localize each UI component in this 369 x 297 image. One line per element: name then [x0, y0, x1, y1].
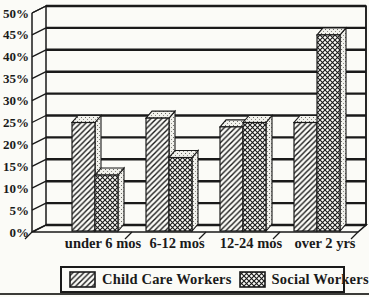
- y-axis-tick: [32, 94, 46, 101]
- y-axis-tick: [32, 116, 46, 123]
- bar-social-workers-3: [317, 28, 346, 231]
- x-axis-category-label: under 6 mos: [65, 235, 142, 251]
- x-axis-category-label: over 2 yrs: [295, 235, 356, 251]
- bar-front-face: [169, 158, 192, 231]
- left-wall-top-edge: [32, 6, 46, 13]
- bar-social-workers-2: [243, 116, 272, 232]
- diagonal-hatch-swatch-icon: [69, 271, 96, 288]
- bar-front-face: [95, 175, 118, 231]
- y-axis-tick: [32, 159, 46, 166]
- y-axis-tick: [32, 181, 46, 188]
- y-axis-tick-label: 15%: [3, 159, 29, 174]
- legend-label-child-care-workers: Child Care Workers: [102, 271, 232, 288]
- y-axis-tick-label: 35%: [3, 71, 29, 86]
- chart-legend: Child Care Workers Social Workers: [60, 266, 345, 293]
- legend-item-social-workers: Social Workers: [239, 271, 369, 288]
- bar-front-face: [294, 123, 317, 232]
- bar-social-workers-0: [95, 168, 124, 231]
- crosshatch-swatch-icon: [239, 271, 266, 288]
- bar-front-face: [72, 123, 95, 232]
- y-axis-tick-label: 5%: [10, 203, 30, 218]
- y-axis-tick-label: 45%: [3, 27, 29, 42]
- y-axis-tick-label: 20%: [3, 137, 29, 152]
- y-axis-tick: [32, 28, 46, 35]
- x-axis-category-label: 6-12 mos: [149, 235, 205, 251]
- bar-side-face: [118, 168, 124, 231]
- grouped-bar-chart: 0%5%10%15%20%25%30%35%40%45%50%under 6 m…: [0, 0, 369, 260]
- bar-front-face: [243, 123, 266, 232]
- bar-side-face: [266, 116, 272, 232]
- bar-side-face: [192, 151, 198, 231]
- legend-label-social-workers: Social Workers: [272, 271, 369, 288]
- y-axis-tick: [32, 203, 46, 210]
- page-bottom-rule: [0, 293, 369, 295]
- bar-social-workers-1: [169, 151, 198, 231]
- x-axis-category-label: 12-24 mos: [220, 235, 283, 251]
- bar-front-face: [146, 118, 169, 231]
- scanned-chart-page: 0%5%10%15%20%25%30%35%40%45%50%under 6 m…: [0, 0, 369, 297]
- y-axis-tick: [32, 50, 46, 57]
- bar-front-face: [317, 35, 340, 231]
- y-axis-tick-label: 50%: [3, 6, 29, 21]
- y-axis-tick: [32, 137, 46, 144]
- y-axis-tick: [32, 72, 46, 79]
- bar-side-face: [340, 28, 346, 231]
- bar-front-face: [220, 127, 243, 231]
- legend-item-child-care-workers: Child Care Workers: [69, 271, 232, 288]
- y-axis-tick-label: 10%: [3, 181, 29, 196]
- y-axis-tick-label: 30%: [3, 93, 29, 108]
- y-axis-tick-label: 25%: [3, 115, 29, 130]
- y-axis-tick-label: 40%: [3, 49, 29, 64]
